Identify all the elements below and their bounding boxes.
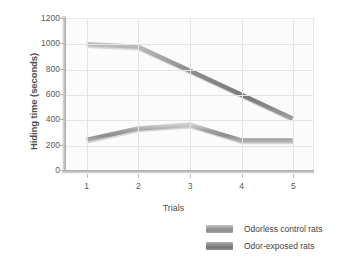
- y-tick-label: 1200: [26, 14, 60, 22]
- y-tick-label: 0: [26, 166, 60, 174]
- plot-area: [66, 18, 314, 170]
- line-chart-figure: Hiding time (seconds) 020040060080010001…: [0, 0, 347, 266]
- y-tick-mark: [60, 94, 65, 95]
- x-tick-label: 3: [177, 181, 203, 191]
- y-tick-mark: [60, 18, 65, 19]
- legend-label: Odorless control rats: [244, 224, 322, 234]
- x-tick-label: 5: [280, 181, 306, 191]
- legend-swatch-icon: [206, 242, 233, 250]
- x-tick-mark: [293, 174, 294, 178]
- y-tick-mark: [60, 145, 65, 146]
- x-tick-label: 1: [74, 181, 100, 191]
- x-tick-label: 2: [125, 181, 151, 191]
- x-axis-line: [62, 170, 314, 174]
- legend-item: Odor-exposed rats: [206, 239, 346, 253]
- y-tick-mark: [60, 119, 65, 120]
- chart-legend: Odorless control ratsOdor-exposed rats: [206, 222, 346, 256]
- y-tick-mark: [60, 69, 65, 70]
- y-axis-tick-labels: 020040060080010001200: [22, 0, 60, 266]
- y-tick-label: 600: [26, 90, 60, 98]
- legend-swatch-icon: [206, 225, 233, 233]
- vertical-gridline: [190, 19, 191, 170]
- y-tick-label: 400: [26, 115, 60, 123]
- x-tick-mark: [242, 174, 243, 178]
- y-tick-label: 1000: [26, 39, 60, 47]
- legend-label: Odor-exposed rats: [244, 241, 314, 251]
- y-tick-mark: [60, 43, 65, 44]
- x-tick-mark: [190, 174, 191, 178]
- y-tick-label: 200: [26, 141, 60, 149]
- vertical-gridline: [87, 19, 88, 170]
- x-tick-mark: [138, 174, 139, 178]
- vertical-gridline: [138, 19, 139, 170]
- x-axis-label: Trials: [0, 203, 347, 213]
- y-tick-label: 800: [26, 65, 60, 73]
- x-tick-label: 4: [229, 181, 255, 191]
- vertical-gridline: [293, 19, 294, 170]
- vertical-gridline: [242, 19, 243, 170]
- y-tick-mark: [60, 170, 65, 171]
- x-tick-mark: [87, 174, 88, 178]
- legend-item: Odorless control rats: [206, 222, 346, 236]
